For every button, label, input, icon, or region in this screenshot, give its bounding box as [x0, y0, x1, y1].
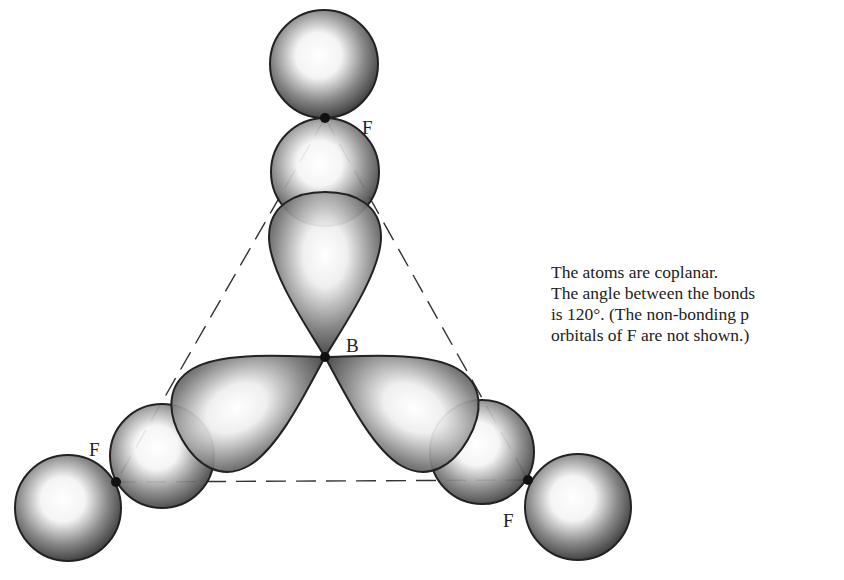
nucleus-b [320, 352, 330, 362]
b-sp2-lobe-top [269, 192, 381, 357]
nucleus-f-left [111, 477, 121, 487]
nucleus-f-top [320, 113, 330, 123]
caption-line: The atoms are coplanar. [551, 262, 841, 283]
f-top-outer-p-lobe [270, 10, 378, 118]
left-bond [15, 309, 353, 561]
caption-line: The angle between the bonds [551, 283, 841, 304]
caption-line: orbitals of F are not shown.) [551, 325, 841, 346]
label-b: B [346, 335, 359, 356]
f-left-outer-p-lobe [15, 455, 121, 561]
top-bond [269, 10, 381, 357]
nucleus-f-right [523, 475, 533, 485]
label-f-left: F [89, 439, 100, 460]
label-f-top: F [362, 117, 373, 138]
caption-line: is 120°. (The non-bonding p [551, 304, 841, 325]
label-f-right: F [503, 510, 514, 531]
f-right-outer-p-lobe [525, 454, 631, 560]
caption: The atoms are coplanar. The angle betwee… [551, 262, 841, 346]
